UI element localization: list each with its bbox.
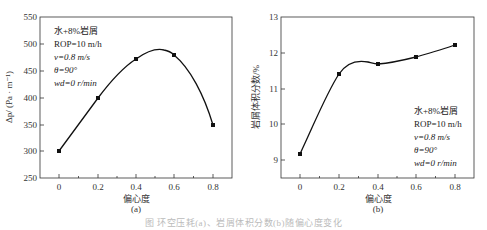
annotation-line: 水+8%岩屑 (414, 105, 458, 116)
y-axis-title-b: 岩屑体积分数/% (250, 64, 261, 129)
annotation-line: wd=0 r/min (54, 78, 97, 88)
x-tick-label: 0.4 (372, 182, 384, 192)
annotation-line: wd=0 r/min (414, 158, 457, 168)
annotation-a: 水+8%岩屑 ROP=10 m/h v=0.8 m/s θ=90° wd=0 r… (54, 25, 102, 88)
y-tick-label: 300 (24, 146, 38, 156)
annotation-line: ROP=10 m/h (414, 119, 462, 129)
y-tick-label: 400 (24, 93, 38, 103)
x-tick-label: 0.2 (333, 182, 344, 192)
x-tick-label: 0.8 (207, 182, 219, 192)
x-tick-labels-a: 0 0.2 0.4 0.6 0.8 (57, 182, 219, 192)
x-tick-label: 0.6 (410, 182, 422, 192)
y-axis-title-a: Δp/ (Pa · m⁻¹) (4, 71, 14, 123)
chart-b: 13 12 11 10 9 0 0.2 0.4 0.6 0.8 偏心度 (b) … (250, 12, 474, 214)
x-tick-label: 0.2 (92, 182, 103, 192)
y-tick-labels-a: 550 500 450 400 350 300 250 (24, 12, 38, 183)
figure-caption: 图 环空压耗(a)、岩屑体积分数(b)随偏心度变化 (0, 216, 487, 229)
x-tick-label: 0 (57, 182, 62, 192)
y-tick-label: 500 (24, 39, 38, 49)
annotation-line: v=0.8 m/s (54, 52, 91, 62)
annotation-line: ROP=10 m/h (54, 39, 102, 49)
y-tick-label: 10 (269, 119, 279, 129)
data-markers-a (57, 53, 215, 153)
y-tick-label: 11 (269, 84, 278, 94)
y-tick-label: 9 (274, 155, 279, 165)
y-tick-label: 450 (24, 66, 38, 76)
annotation-line: 水+8%岩屑 (54, 25, 98, 36)
figure: 550 500 450 400 350 300 250 0 0.2 0.4 0.… (0, 0, 487, 230)
series-line-a (59, 49, 213, 151)
x-tick-labels-b: 0 0.2 0.4 0.6 0.8 (298, 182, 461, 192)
panel-label-b: (b) (373, 204, 384, 214)
x-tick-label: 0.6 (168, 182, 180, 192)
annotation-line: θ=90° (414, 145, 437, 155)
annotation-line: v=0.8 m/s (414, 132, 451, 142)
x-tick-label: 0.8 (449, 182, 461, 192)
y-tick-label: 250 (24, 173, 38, 183)
y-tick-label: 350 (24, 120, 38, 130)
y-tick-labels-b: 13 12 11 10 9 (269, 12, 279, 165)
panel-label-a: (a) (131, 204, 141, 214)
annotation-b: 水+8%岩屑 ROP=10 m/h v=0.8 m/s θ=90° wd=0 r… (414, 105, 462, 168)
x-axis-title-a: 偏心度 (123, 193, 150, 204)
x-axis-title-b: 偏心度 (365, 193, 392, 204)
y-tick-label: 550 (24, 12, 38, 22)
x-tick-label: 0.4 (130, 182, 142, 192)
plot-frame-b (281, 17, 474, 178)
annotation-line: θ=90° (54, 65, 77, 75)
chart-a: 550 500 450 400 350 300 250 0 0.2 0.4 0.… (4, 12, 232, 214)
y-tick-label: 12 (269, 48, 278, 58)
y-tick-label: 13 (269, 12, 279, 22)
x-tick-label: 0 (298, 182, 303, 192)
